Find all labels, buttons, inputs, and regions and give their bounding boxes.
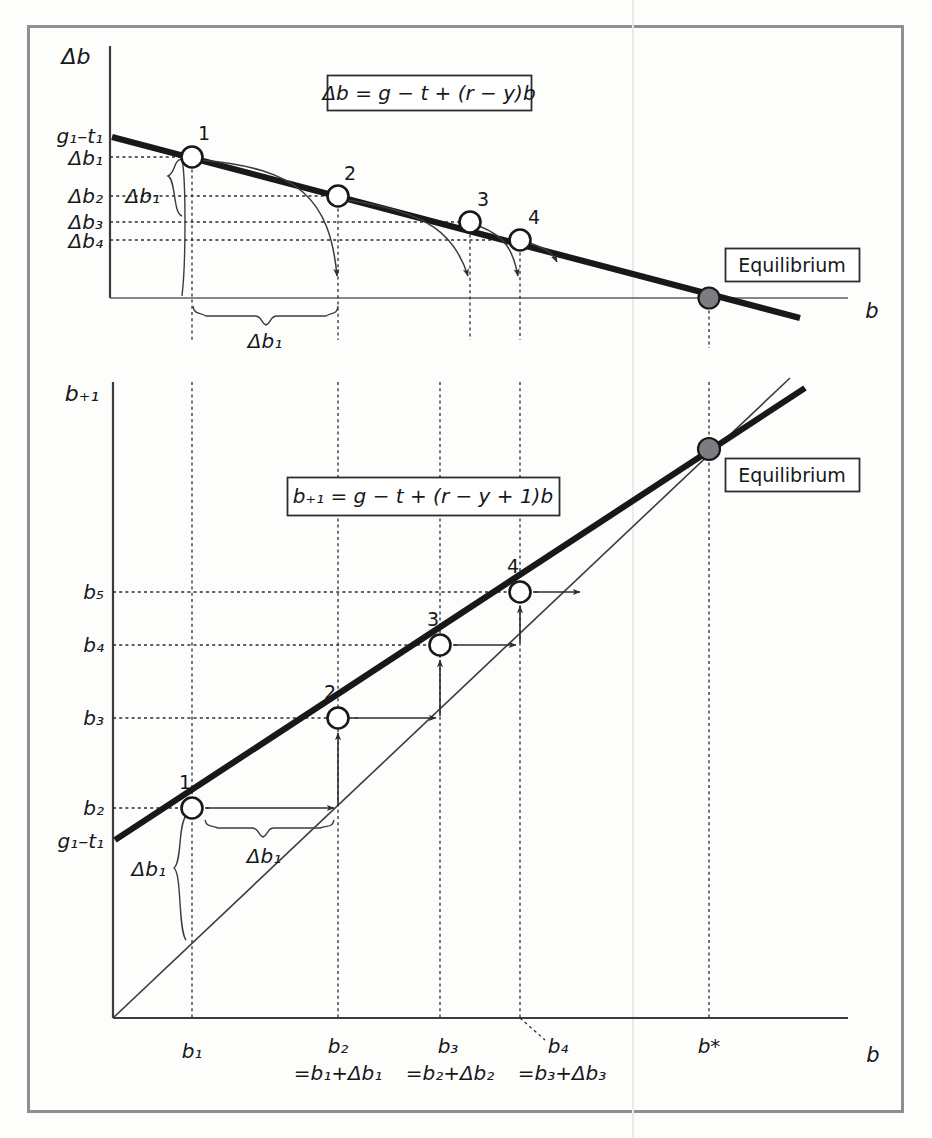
top-point-label-3: 3 — [477, 188, 489, 210]
bottom-equilibrium-box: Equilibrium — [726, 459, 860, 492]
top-ylabel-g1t1: g₁–t₁ — [56, 124, 103, 148]
bottom-ylabel-b4: b₄ — [83, 633, 104, 657]
bottom-point-label-1: 1 — [179, 771, 191, 793]
top-point-4 — [510, 230, 531, 251]
top-equilibrium-box: Equilibrium — [726, 249, 860, 282]
debt-dynamics-diagram: 1 2 3 4 Δb g₁–t₁ Δb₁ Δb₂ Δb₃ Δb₄ Δb₁ Δb₁… — [0, 0, 932, 1138]
bottom-xlabel-b1: b₁ — [182, 1039, 203, 1063]
bottom-point-label-4: 4 — [507, 555, 519, 577]
bottom-point-4 — [510, 582, 531, 603]
top-equilibrium-label: Equilibrium — [738, 254, 846, 276]
bottom-equation-text: b₊₁ = g − t + (r − y + 1)b — [293, 484, 553, 508]
top-panel-y-axis-label: Δb — [59, 44, 90, 69]
bottom-xlabel-b2: b₂ — [328, 1034, 349, 1058]
top-ylabel-db1: Δb₁ — [67, 146, 103, 170]
bottom-ylabel-b2: b₂ — [83, 796, 104, 820]
bottom-ylabel-b3: b₃ — [83, 706, 104, 730]
top-point-label-1: 1 — [198, 122, 210, 144]
bottom-point-1 — [182, 798, 203, 819]
bottom-point-label-3: 3 — [427, 608, 439, 630]
top-equilibrium-dot — [699, 288, 720, 309]
bottom-xsublabel-b3: =b₂+Δb₂ — [406, 1061, 495, 1085]
bottom-ylabel-g1t1: g₁–t₁ — [57, 829, 104, 853]
bottom-point-2 — [328, 708, 349, 729]
top-vertical-brace-label: Δb₁ — [124, 184, 160, 208]
bottom-horizontal-brace-label: Δb₁ — [245, 844, 281, 868]
top-ylabel-db4: Δb₄ — [67, 229, 103, 253]
bottom-xlabel-bstar: b* — [698, 1034, 721, 1058]
bottom-xsublabel-b4: =b₃+Δb₃ — [518, 1061, 607, 1085]
bottom-xlabel-b4: b₄ — [548, 1034, 569, 1058]
top-equation-text: Δb = g − t + (r − y)b — [320, 81, 535, 105]
top-point-1 — [182, 147, 203, 168]
bottom-point-3 — [430, 635, 451, 656]
bottom-vertical-brace-label: Δb₁ — [130, 857, 166, 881]
top-ylabel-db2: Δb₂ — [67, 184, 103, 208]
bottom-equilibrium-label: Equilibrium — [738, 464, 846, 486]
top-horizontal-brace-label: Δb₁ — [246, 329, 282, 353]
top-point-label-2: 2 — [344, 162, 356, 184]
bottom-panel-y-axis-label: b₊₁ — [65, 381, 99, 406]
bottom-ylabel-b5: b₅ — [83, 580, 104, 604]
bottom-panel-x-axis-label: b — [866, 1043, 879, 1067]
top-point-label-4: 4 — [528, 206, 540, 228]
top-panel-x-axis-label: b — [865, 299, 878, 323]
top-equation-box: Δb = g − t + (r − y)b — [320, 76, 535, 111]
bottom-xlabel-b3: b₃ — [438, 1034, 459, 1058]
figure-container: 1 2 3 4 Δb g₁–t₁ Δb₁ Δb₂ Δb₃ Δb₄ Δb₁ Δb₁… — [0, 0, 932, 1138]
bottom-xsublabel-b2: =b₁+Δb₁ — [294, 1061, 383, 1085]
bottom-point-label-2: 2 — [324, 681, 336, 703]
top-point-3 — [460, 212, 481, 233]
top-point-2 — [328, 186, 349, 207]
bottom-equilibrium-dot — [698, 438, 720, 460]
bottom-equation-box: b₊₁ = g − t + (r − y + 1)b — [288, 478, 560, 516]
